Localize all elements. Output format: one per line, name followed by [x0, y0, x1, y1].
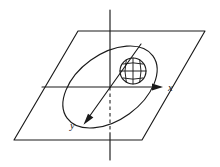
y-axis-arrowhead: [84, 114, 94, 125]
coordinate-plane-diagram: x y: [0, 0, 220, 167]
y-axis-label: y: [69, 120, 75, 131]
x-axis-label: x: [167, 82, 173, 93]
figure-container: x y: [0, 0, 220, 167]
gridded-sphere: [120, 58, 146, 84]
x-axis-arrowhead: [152, 83, 163, 90]
